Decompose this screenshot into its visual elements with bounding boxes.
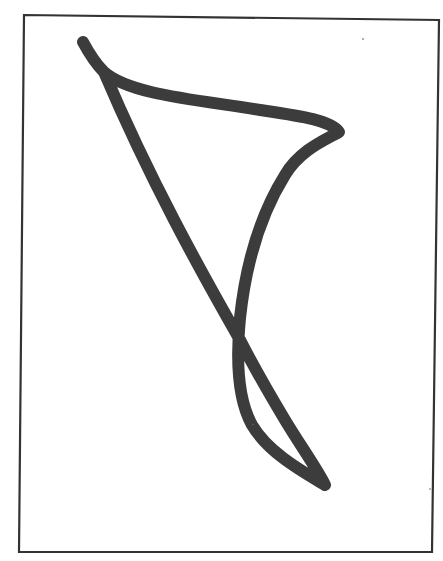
speck [429, 488, 431, 490]
drawing-canvas: Single continuous freehand stroke formin… [0, 0, 443, 561]
line-drawing [0, 0, 443, 561]
speck [362, 38, 364, 40]
background [0, 0, 443, 561]
